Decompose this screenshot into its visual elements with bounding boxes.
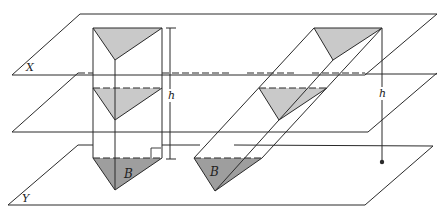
- oblique-prism-base-label: B: [209, 165, 219, 179]
- oblique-prism-height-label: h: [379, 87, 386, 100]
- plane-x: X: [12, 14, 437, 75]
- right-prism-base-label: B: [123, 167, 133, 181]
- plane-x-label: X: [25, 61, 35, 74]
- right-prism-top-face: [93, 28, 162, 60]
- oblique-prism-top-face: [314, 28, 382, 60]
- oblique-prism: B h: [194, 28, 387, 191]
- height-foot-dot: [380, 160, 384, 164]
- right-prism-height-label: h: [168, 89, 175, 102]
- right-prism: B h: [93, 28, 176, 190]
- prism-diagram: Y X B: [0, 0, 445, 214]
- right-angle-marker: [151, 148, 161, 158]
- middle-plane: [12, 73, 437, 132]
- plane-y-label: Y: [22, 192, 31, 205]
- right-prism-cross-section: [93, 88, 162, 120]
